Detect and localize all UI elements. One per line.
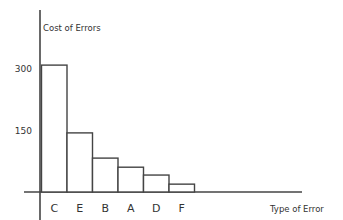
- x-tick-label: E: [76, 202, 83, 215]
- bar-B: [93, 158, 119, 192]
- x-axis-label: Type of Error: [269, 204, 324, 214]
- bar-F: [169, 184, 195, 192]
- y-tick-label: 300: [15, 64, 32, 74]
- bar-D: [144, 175, 170, 192]
- bar-C: [42, 65, 68, 192]
- x-tick-label: F: [179, 202, 185, 215]
- x-tick-label: C: [50, 202, 58, 215]
- x-tick-label: D: [152, 202, 160, 215]
- y-tick-label: 150: [15, 126, 32, 136]
- x-tick-label: B: [101, 202, 109, 215]
- pareto-chart: Cost of Errors Type of Error 150300 CEBA…: [0, 0, 343, 220]
- bar-E: [67, 133, 93, 192]
- y-axis-label: Cost of Errors: [43, 23, 101, 33]
- bar-A: [118, 167, 144, 192]
- x-tick-label: A: [127, 202, 135, 215]
